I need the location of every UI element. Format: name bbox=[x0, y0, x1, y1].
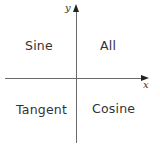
x-axis-label: x bbox=[143, 79, 149, 90]
x-axis bbox=[5, 78, 145, 79]
quadrant-3-label: Tangent bbox=[16, 102, 67, 117]
quadrant-2-label: Sine bbox=[25, 38, 53, 53]
y-axis-arrow-icon bbox=[73, 4, 79, 12]
y-axis bbox=[76, 8, 77, 143]
quadrant-1-label: All bbox=[100, 38, 116, 53]
quadrant-4-label: Cosine bbox=[92, 101, 135, 116]
y-axis-label: y bbox=[65, 2, 71, 13]
